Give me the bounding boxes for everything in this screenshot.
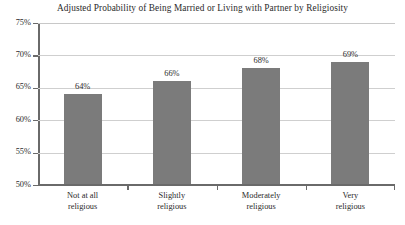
gridline — [38, 23, 395, 24]
x-axis-tick — [127, 185, 128, 190]
x-axis-tick-label: Veryreligious — [306, 191, 394, 212]
x-axis-tick-label: Moderatelyreligious — [217, 191, 305, 212]
bar — [64, 94, 102, 185]
x-axis-tick — [306, 185, 307, 190]
bar-value-label: 66% — [152, 69, 192, 78]
y-axis-tick — [33, 153, 38, 154]
plot-area — [38, 23, 395, 185]
x-axis-tick-label-line: Very — [306, 191, 394, 202]
y-axis-tick — [33, 185, 38, 186]
bar — [331, 62, 369, 185]
y-axis-tick — [33, 23, 38, 24]
bar-chart: Adjusted Probability of Being Married or… — [0, 0, 405, 225]
bar-value-label: 68% — [241, 56, 281, 65]
y-axis-tick-label: 65% — [0, 82, 31, 91]
x-axis-tick-label: Not at allreligious — [39, 191, 127, 212]
bar — [153, 81, 191, 185]
x-axis-tick-label-line: religious — [39, 202, 127, 213]
bar-value-label: 69% — [330, 50, 370, 59]
y-axis-tick — [33, 120, 38, 121]
x-axis-tick-label: Slightlyreligious — [128, 191, 216, 212]
x-axis-tick — [217, 185, 218, 190]
y-axis-tick — [33, 55, 38, 56]
x-axis-tick-label-line: religious — [217, 202, 305, 213]
y-axis-tick-label: 70% — [0, 50, 31, 59]
x-axis-end-tick — [394, 185, 395, 190]
bar-value-label: 64% — [63, 82, 103, 91]
x-axis-tick-label-line: Moderately — [217, 191, 305, 202]
bar — [242, 68, 280, 185]
y-axis-tick-label: 55% — [0, 147, 31, 156]
x-axis-tick-label-line: Slightly — [128, 191, 216, 202]
chart-title: Adjusted Probability of Being Married or… — [0, 3, 405, 13]
y-axis-tick-label: 50% — [0, 180, 31, 189]
x-axis-tick-label-line: Not at all — [39, 191, 127, 202]
y-axis-tick-label: 75% — [0, 18, 31, 27]
y-axis-tick-label: 60% — [0, 115, 31, 124]
y-axis-tick — [33, 88, 38, 89]
x-axis-tick-label-line: religious — [306, 202, 394, 213]
x-axis-tick-label-line: religious — [128, 202, 216, 213]
